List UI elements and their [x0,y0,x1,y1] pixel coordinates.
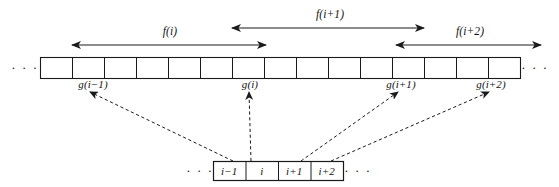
dashed-arrow-group [90,92,489,161]
top-strip-left-ellipsis: · · · [11,60,39,76]
f-arrow-label-1: f(i+1) [316,8,344,20]
g-label-3: g(i+2) [476,78,505,90]
bottom-cell-label-1: i [260,165,263,177]
g-label-0: g(i−1) [78,78,107,90]
top-strip-group [41,58,521,79]
bottom-strip-left-ellipsis: · · · [186,163,214,179]
interleaving-diagram: f(i)f(i+1)f(i+2)· · ·· · ·g(i−1)g(i)g(i+… [0,0,559,187]
arrow-to-g-i-plus-2 [331,92,489,161]
bottom-cell-label-2: i+1 [286,165,302,177]
arrow-to-g-i-minus-1 [90,92,233,161]
bottom-strip-right-ellipsis: · · · [344,163,372,179]
bottom-cell-label-3: i+2 [319,165,335,177]
top-strip-outline [41,58,521,79]
g-label-2: g(i+1) [386,78,415,90]
arrow-to-g-i [249,92,251,161]
f-arrow-label-2: f(i+2) [456,25,484,37]
top-strip-right-ellipsis: · · · [521,60,549,76]
bottom-cell-label-0: i−1 [221,165,237,177]
arrow-to-g-i-plus-1 [301,92,398,161]
g-label-1: g(i) [242,78,258,90]
f-arrow-label-0: f(i) [163,25,177,37]
